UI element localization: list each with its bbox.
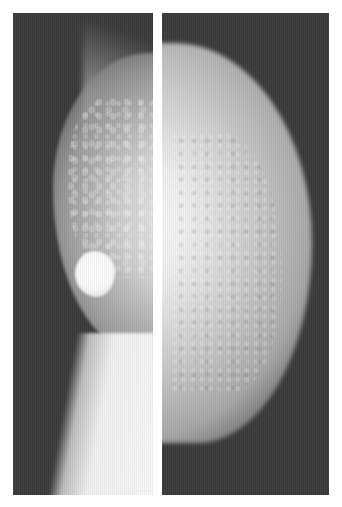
right-mammogram-panel xyxy=(162,13,329,495)
lower-soft-tissue xyxy=(45,333,153,495)
fibroglandular-pattern xyxy=(68,98,153,278)
left-mammogram-panel xyxy=(13,13,153,495)
dense-mass xyxy=(75,251,115,297)
